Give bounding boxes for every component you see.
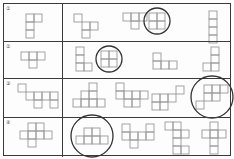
net-square xyxy=(152,94,160,102)
net-square xyxy=(181,130,189,138)
net-square xyxy=(173,122,181,130)
net-square xyxy=(140,91,148,99)
net-square xyxy=(131,13,139,21)
net-square xyxy=(204,93,212,101)
net-square xyxy=(21,52,29,60)
option-shape-3[interactable] xyxy=(165,122,189,154)
net-square xyxy=(89,91,97,99)
net-square xyxy=(28,131,36,139)
question-number: ② xyxy=(6,43,10,49)
net-square xyxy=(210,122,218,130)
net-square xyxy=(109,59,117,67)
net-square xyxy=(138,132,146,140)
net-square xyxy=(26,92,34,100)
net-square xyxy=(92,136,100,144)
question-number: ① xyxy=(6,5,10,11)
net-square xyxy=(42,92,50,100)
net-square xyxy=(209,19,217,27)
net-square xyxy=(123,13,131,21)
net-square xyxy=(84,128,92,136)
net-square xyxy=(122,124,130,132)
net-square xyxy=(82,30,90,38)
option-shape-4[interactable] xyxy=(209,11,217,43)
option-shape-1[interactable] xyxy=(76,128,108,144)
given-shape-cell: ④ xyxy=(4,118,63,157)
net-square xyxy=(116,91,124,99)
net-square xyxy=(100,136,108,144)
option-shape-1[interactable] xyxy=(73,83,105,107)
net-square xyxy=(76,47,84,55)
given-shape xyxy=(20,123,52,147)
net-square xyxy=(50,100,58,108)
net-square xyxy=(209,11,217,19)
net-square xyxy=(210,146,218,154)
option-shape-1[interactable] xyxy=(76,47,92,71)
net-square xyxy=(18,84,26,92)
option-shape-4[interactable] xyxy=(202,122,226,154)
net-square xyxy=(176,86,184,94)
net-square xyxy=(101,51,109,59)
option-shape-4[interactable] xyxy=(196,85,228,109)
net-square xyxy=(122,132,130,140)
net-square xyxy=(149,13,157,21)
option-shape-3[interactable] xyxy=(153,53,177,69)
net-square xyxy=(34,14,42,22)
net-square xyxy=(29,52,37,60)
net-square xyxy=(97,99,105,107)
net-square xyxy=(28,123,36,131)
net-square xyxy=(81,91,89,99)
option-shape-2[interactable] xyxy=(101,51,117,67)
question-row: ① xyxy=(4,4,230,41)
net-square xyxy=(29,60,37,68)
net-square xyxy=(20,131,28,139)
net-square xyxy=(157,13,165,21)
net-square xyxy=(153,61,161,69)
net-square xyxy=(34,100,42,108)
net-square xyxy=(209,27,217,35)
net-square xyxy=(82,22,90,30)
given-shape-cell: ② xyxy=(4,42,63,78)
net-square xyxy=(89,99,97,107)
net-square xyxy=(168,94,176,102)
net-square xyxy=(132,99,140,107)
option-shape-1[interactable] xyxy=(74,14,98,38)
option-shape-3[interactable] xyxy=(149,13,165,29)
net-square xyxy=(73,99,81,107)
option-shape-4[interactable] xyxy=(203,47,219,71)
net-square xyxy=(173,130,181,138)
net-square xyxy=(165,122,173,130)
net-square xyxy=(211,63,219,71)
net-square xyxy=(212,85,220,93)
net-square xyxy=(210,130,218,138)
net-square xyxy=(81,99,89,107)
net-square xyxy=(204,85,212,93)
option-shape-3[interactable] xyxy=(152,86,184,110)
net-square xyxy=(210,138,218,146)
net-square xyxy=(34,92,42,100)
net-square xyxy=(116,83,124,91)
net-square xyxy=(196,101,204,109)
given-shape xyxy=(26,14,42,38)
net-square xyxy=(152,102,160,110)
net-square xyxy=(37,52,45,60)
option-shape-2[interactable] xyxy=(116,83,148,107)
given-shape-cell: ① xyxy=(4,4,63,41)
net-square xyxy=(132,91,140,99)
net-square xyxy=(124,99,132,107)
net-square xyxy=(153,53,161,61)
net-square xyxy=(218,130,226,138)
net-square xyxy=(157,21,165,29)
net-square xyxy=(212,93,220,101)
net-square xyxy=(146,124,154,132)
net-square xyxy=(26,14,34,22)
option-shape-2[interactable] xyxy=(122,124,154,148)
net-square xyxy=(211,55,219,63)
question-number: ③ xyxy=(6,80,10,86)
given-shape-cell: ③ xyxy=(4,79,63,117)
net-square xyxy=(50,92,58,100)
net-square xyxy=(44,131,52,139)
net-square xyxy=(109,51,117,59)
net-square xyxy=(203,63,211,71)
net-square xyxy=(211,47,219,55)
net-square xyxy=(160,102,168,110)
